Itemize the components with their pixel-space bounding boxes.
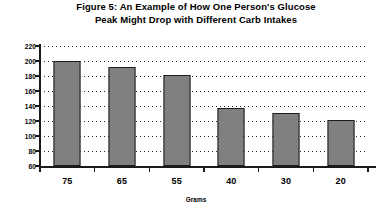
y-axis-tick-label: 120 <box>8 118 36 125</box>
bar <box>163 75 190 166</box>
bar-slot <box>204 46 259 166</box>
bar-slot <box>259 46 314 166</box>
bar-slot <box>95 46 150 166</box>
chart-title: Figure 5: An Example of How One Person's… <box>0 1 392 26</box>
x-axis-tick-mark <box>94 167 95 172</box>
bar <box>54 61 81 166</box>
x-axis-tick-label: 30 <box>259 176 314 186</box>
y-axis-tick-label: 200 <box>8 58 36 65</box>
y-axis-tick-label: 180 <box>8 73 36 80</box>
bar <box>218 108 245 167</box>
bar <box>327 120 354 167</box>
x-axis-tick-label: 55 <box>149 176 204 186</box>
x-axis-tick-label: 40 <box>204 176 259 186</box>
x-axis-tick-label: 65 <box>95 176 150 186</box>
bar-slot <box>40 46 95 166</box>
x-axis-tick-mark <box>149 167 150 172</box>
x-axis-tick-mark <box>367 167 368 172</box>
x-axis-labels: 756555403020 <box>40 176 368 186</box>
x-axis-tick-mark <box>313 167 314 172</box>
y-axis-tick-label: 140 <box>8 103 36 110</box>
x-axis-title: Grams <box>0 196 392 203</box>
y-axis-tick-label: 100 <box>8 133 36 140</box>
y-axis-tick-label: 220 <box>8 43 36 50</box>
x-axis-tick-label: 20 <box>313 176 368 186</box>
x-axis-tick-mark <box>39 167 40 172</box>
x-axis-tick-mark <box>203 167 204 172</box>
y-axis-tick-label: 160 <box>8 88 36 95</box>
x-axis-tick-mark <box>258 167 259 172</box>
x-axis-tick-label: 75 <box>40 176 95 186</box>
y-axis-tick-label: 80 <box>8 148 36 155</box>
chart-figure: Figure 5: An Example of How One Person's… <box>0 0 392 213</box>
bar-slot <box>313 46 368 166</box>
bar-slot <box>149 46 204 166</box>
chart-title-line-2: Peak Might Drop with Different Carb Inta… <box>0 14 392 27</box>
bar-series <box>40 46 368 166</box>
bar <box>273 113 300 166</box>
x-axis-line <box>39 166 376 168</box>
y-axis-tick-label: 60 <box>8 163 36 170</box>
bar <box>109 67 136 166</box>
chart-title-line-1: Figure 5: An Example of How One Person's… <box>0 1 392 14</box>
